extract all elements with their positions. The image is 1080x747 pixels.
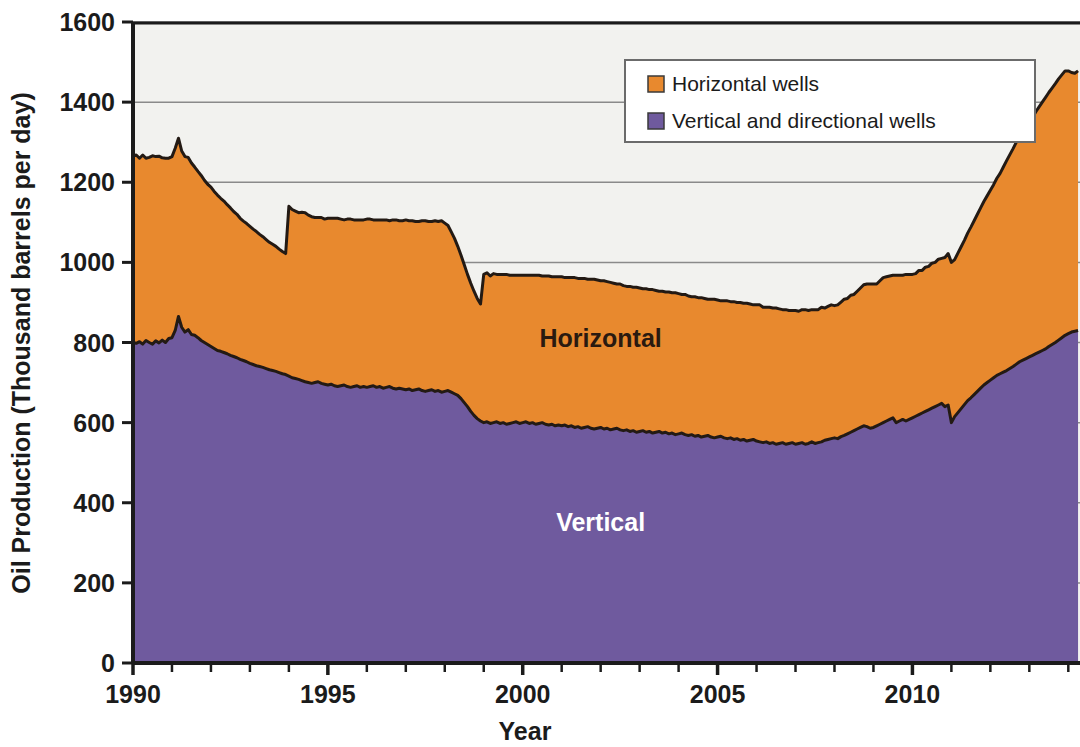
y-tick-label-400: 400 — [73, 489, 115, 517]
legend-label-horizontal-wells: Horizontal wells — [672, 72, 819, 95]
legend-swatch-horizontal-wells — [648, 76, 664, 92]
y-tick-label-0: 0 — [101, 649, 115, 677]
y-tick-label-200: 200 — [73, 569, 115, 597]
y-tick-label-800: 800 — [73, 329, 115, 357]
legend-swatch-vertical-wells — [648, 113, 664, 129]
x-tick-label-1995: 1995 — [300, 680, 356, 708]
y-axis-title: Oil Production (Thousand barrels per day… — [7, 92, 35, 593]
x-tick-label-2010: 2010 — [885, 680, 941, 708]
x-tick-label-1990: 1990 — [105, 680, 161, 708]
x-tick-label-2005: 2005 — [690, 680, 746, 708]
chart-root: 02004006008001000120014001600 1990199520… — [0, 0, 1080, 747]
y-tick-label-1000: 1000 — [59, 248, 115, 276]
plot-label-vertical: Vertical — [556, 508, 645, 536]
plot-label-horizontal: Horizontal — [540, 324, 662, 352]
x-axis-title: Year — [499, 717, 552, 745]
x-tick-label-2000: 2000 — [495, 680, 551, 708]
y-tick-label-1600: 1600 — [59, 8, 115, 36]
y-axis-tick-labels: 02004006008001000120014001600 — [59, 8, 115, 677]
x-axis-tick-labels: 19901995200020052010 — [105, 680, 940, 708]
y-tick-label-1400: 1400 — [59, 88, 115, 116]
legend-label-vertical-wells: Vertical and directional wells — [672, 109, 936, 132]
oil-production-area-chart: 02004006008001000120014001600 1990199520… — [0, 0, 1080, 747]
chart-legend: Horizontal wells Vertical and directiona… — [625, 60, 1035, 142]
y-tick-label-1200: 1200 — [59, 168, 115, 196]
y-tick-label-600: 600 — [73, 409, 115, 437]
